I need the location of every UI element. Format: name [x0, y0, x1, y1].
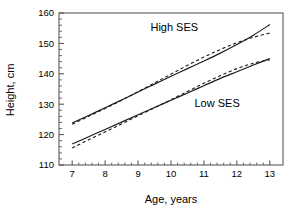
series-line — [72, 60, 270, 148]
series-line — [72, 59, 270, 144]
x-tick-label: 10 — [166, 168, 177, 179]
y-tick-label: 120 — [38, 129, 54, 140]
series-curves — [72, 25, 270, 148]
chart-figure: 78910111213 110120130140150160 High SESL… — [0, 0, 300, 209]
x-tick-label: 8 — [102, 168, 107, 179]
x-tick-label: 9 — [135, 168, 140, 179]
x-tick-label: 7 — [70, 168, 75, 179]
series-line — [72, 33, 270, 124]
y-axis-title: Height, cm — [4, 64, 16, 117]
series-annotation-label: High SES — [150, 21, 198, 33]
y-tick-label: 110 — [39, 159, 54, 170]
plot-frame — [59, 13, 283, 165]
x-tick-label-group: 78910111213 — [70, 168, 276, 179]
y-tick-label: 150 — [38, 38, 54, 49]
series-annotation-label: Low SES — [194, 97, 239, 109]
x-tick-label: 13 — [265, 168, 276, 179]
y-tick-label: 130 — [38, 99, 54, 110]
y-tick-label-group: 110120130140150160 — [38, 7, 54, 170]
x-tick-label: 12 — [232, 168, 243, 179]
y-tick-label: 160 — [38, 7, 54, 18]
x-axis-title: Age, years — [145, 193, 198, 205]
x-tick-label: 11 — [199, 168, 209, 179]
minor-tick-group — [59, 19, 263, 165]
y-tick-label: 140 — [38, 68, 54, 79]
height-vs-age-line-chart: 78910111213 110120130140150160 High SESL… — [0, 0, 300, 209]
major-tick-group — [59, 13, 270, 165]
